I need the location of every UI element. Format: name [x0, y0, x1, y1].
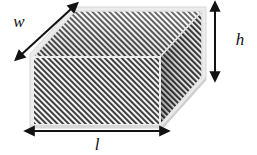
prism-bottom-edge — [30, 125, 163, 128]
height-label: h — [236, 30, 245, 49]
length-label: l — [95, 135, 100, 154]
prism-body — [30, 7, 206, 128]
width-label: w — [13, 12, 25, 31]
figure-container: w h l — [0, 0, 257, 155]
prism-front-face — [33, 57, 160, 125]
rectangular-prism-figure: w h l — [0, 0, 257, 155]
